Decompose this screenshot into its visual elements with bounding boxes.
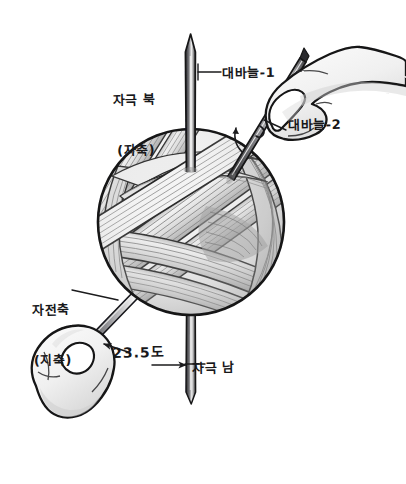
label-rotation-axis-line2: (지축) xyxy=(32,352,72,369)
label-rotation-axis: 자전축 (지축) xyxy=(30,269,73,403)
label-magnetic-north: 자극 북 (자축) xyxy=(112,59,157,193)
label-magnetic-north-line1: 자극 북 xyxy=(113,92,156,110)
label-rotation-axis-line1: 자전축 xyxy=(31,302,71,319)
sketch-canvas: 자극 북 (자축) 대바늘-1 대바늘-2 자전축 (지축) 23.5도 자극 … xyxy=(0,0,406,484)
vertical-needle-upper xyxy=(184,34,198,173)
label-needle-1: 대바늘-1 xyxy=(222,65,275,83)
leader-rotation-axis xyxy=(72,290,118,300)
drawing-layer xyxy=(0,0,406,484)
label-needle-2: 대바늘-2 xyxy=(288,117,341,135)
label-tilt-angle: 23.5도 xyxy=(112,344,165,363)
label-magnetic-north-line2: (자축) xyxy=(114,142,157,160)
label-magnetic-south: 자극 남 xyxy=(192,360,235,378)
